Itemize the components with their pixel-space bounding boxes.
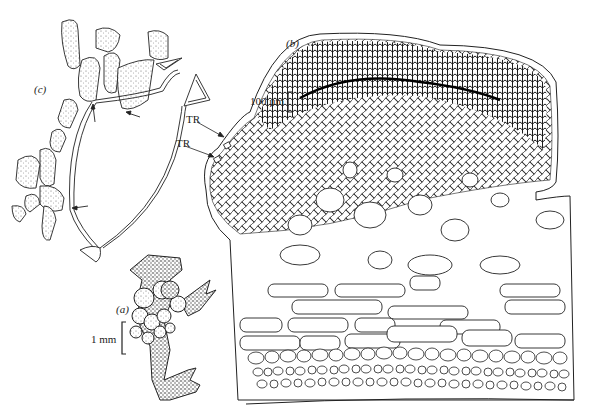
scale-label-100um: 100 µm bbox=[250, 96, 284, 107]
figure-drawing bbox=[0, 0, 591, 413]
panel-a-drawing bbox=[130, 255, 216, 400]
scale-bar-1mm bbox=[122, 322, 126, 354]
panel-c-label: (c) bbox=[34, 84, 46, 95]
panel-b-drawing bbox=[205, 33, 575, 404]
panel-a-label: (a) bbox=[116, 304, 129, 315]
tr-label-upper: TR bbox=[186, 114, 200, 125]
tr-label-lower: TR bbox=[176, 138, 190, 149]
figure: (c) (b) (a) 100 µm 1 mm TR TR bbox=[0, 0, 591, 413]
scale-label-1mm: 1 mm bbox=[91, 334, 116, 345]
panel-b-label: (b) bbox=[286, 38, 299, 49]
